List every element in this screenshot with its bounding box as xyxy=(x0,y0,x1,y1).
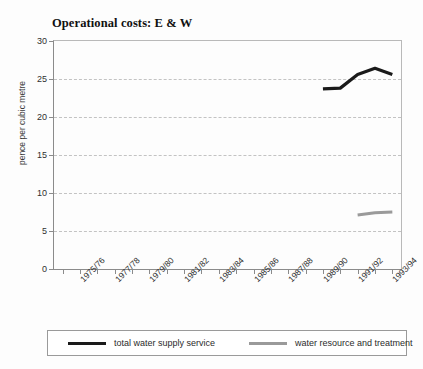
plot-inner: 051015202530 1975/761977/781979/801981/8… xyxy=(54,41,401,269)
y-tick-label: 25 xyxy=(37,74,47,84)
y-tick-label: 10 xyxy=(37,188,47,198)
x-tick xyxy=(340,269,341,274)
x-tick xyxy=(167,269,168,274)
legend-swatch-icon xyxy=(68,342,106,345)
x-tick xyxy=(63,269,64,274)
y-axis-title: pence per cubic metre xyxy=(17,63,27,183)
x-tick xyxy=(97,269,98,274)
series-line xyxy=(323,68,392,89)
y-tick-label: 15 xyxy=(37,150,47,160)
plot-area: 051015202530 1975/761977/781979/801981/8… xyxy=(53,40,402,270)
x-tick xyxy=(132,269,133,274)
y-tick-label: 20 xyxy=(37,112,47,122)
x-tick xyxy=(236,269,237,274)
series-lines xyxy=(54,41,401,269)
legend-label: total water supply service xyxy=(114,338,215,348)
page-title: Operational costs: E & W xyxy=(52,16,192,31)
series-line xyxy=(358,212,393,215)
legend-swatch-icon xyxy=(249,342,287,345)
y-tick xyxy=(49,269,54,270)
x-tick xyxy=(201,269,202,274)
chart-page: Operational costs: E & W pence per cubic… xyxy=(0,0,423,369)
y-tick-label: 30 xyxy=(37,36,47,46)
legend-item[interactable]: total water supply service xyxy=(68,338,215,348)
x-tick xyxy=(271,269,272,274)
x-tick xyxy=(306,269,307,274)
legend-label: water resource and treatment xyxy=(295,338,413,348)
y-tick-label: 5 xyxy=(42,226,47,236)
legend: total water supply servicewater resource… xyxy=(47,330,407,356)
x-tick xyxy=(375,269,376,274)
legend-item[interactable]: water resource and treatment xyxy=(249,338,413,348)
y-tick-label: 0 xyxy=(42,264,47,274)
